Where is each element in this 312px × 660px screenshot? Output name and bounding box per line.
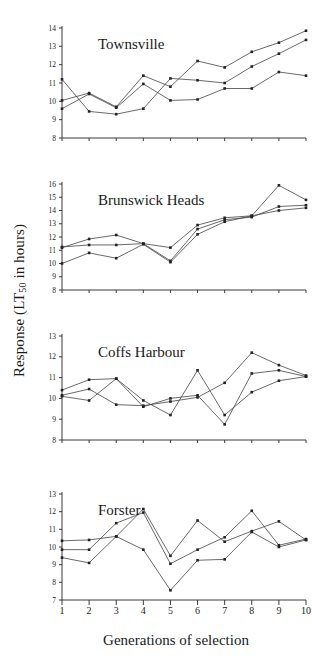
x-tick-label: 6 [195, 605, 200, 616]
data-point-marker [223, 87, 226, 90]
data-point-marker [305, 39, 308, 42]
data-point-marker [142, 511, 145, 514]
y-tick-label: 10 [49, 543, 57, 552]
y-tick-label: 11 [49, 246, 56, 255]
x-tick-label: 2 [87, 605, 92, 616]
data-point-marker [61, 262, 64, 265]
data-point-marker [61, 107, 64, 110]
series-line-3 [62, 208, 306, 264]
data-point-marker [278, 41, 281, 44]
y-tick-label: 8 [52, 134, 56, 143]
panel-brunswick-heads: 8910111213141516Brunswick Heads [40, 178, 312, 306]
data-point-marker [169, 400, 172, 403]
figure-root: Response (LT50 in hours) 891011121314Tow… [0, 0, 312, 660]
data-point-marker [88, 93, 91, 96]
data-point-marker [196, 79, 199, 82]
data-point-marker [223, 536, 226, 539]
data-point-marker [142, 548, 145, 551]
data-point-marker [169, 589, 172, 592]
data-point-marker [115, 403, 118, 406]
data-point-marker [61, 395, 64, 398]
y-axis-label-container: Response (LT50 in hours) [0, 0, 40, 600]
data-point-marker [115, 244, 118, 247]
y-tick-label: 11 [49, 373, 56, 382]
data-point-marker [250, 65, 253, 68]
series-line-3 [62, 370, 306, 424]
data-point-marker [169, 562, 172, 565]
data-point-marker [169, 414, 172, 417]
x-tick-label: 9 [276, 605, 281, 616]
data-point-marker [88, 399, 91, 402]
data-point-marker [305, 207, 308, 210]
data-point-marker [196, 559, 199, 562]
data-point-marker [223, 66, 226, 69]
data-point-marker [88, 548, 91, 551]
data-point-marker [278, 209, 281, 212]
data-point-marker [115, 113, 118, 116]
data-point-marker [223, 423, 226, 426]
data-point-marker [169, 77, 172, 80]
data-point-marker [223, 220, 226, 223]
data-point-marker [196, 548, 199, 551]
data-point-marker [88, 562, 91, 565]
data-point-marker [196, 98, 199, 101]
data-point-marker [223, 382, 226, 385]
data-point-marker [278, 52, 281, 55]
data-point-marker [169, 555, 172, 558]
data-point-marker [61, 389, 64, 392]
y-tick-label: 9 [52, 415, 56, 424]
data-point-marker [278, 71, 281, 74]
x-tick-label: 5 [168, 605, 173, 616]
data-point-marker [88, 378, 91, 381]
data-point-marker [88, 252, 91, 255]
data-point-marker [115, 535, 118, 538]
data-point-marker [305, 29, 308, 32]
data-point-marker [278, 205, 281, 208]
data-point-marker [196, 224, 199, 227]
data-point-marker [250, 87, 253, 90]
data-point-marker [142, 399, 145, 402]
data-point-marker [61, 556, 64, 559]
y-tick-label: 14 [49, 24, 57, 33]
series-line-2 [62, 205, 306, 261]
y-tick-label: 8 [52, 436, 56, 445]
data-point-marker [61, 99, 64, 102]
data-point-marker [142, 107, 145, 110]
data-point-marker [115, 377, 118, 380]
y-tick-label: 13 [49, 332, 57, 341]
data-point-marker [305, 74, 308, 77]
data-point-marker [88, 244, 91, 247]
y-tick-label: 13 [49, 490, 57, 499]
data-point-marker [250, 531, 253, 534]
chart-townsville: 891011121314 [40, 22, 312, 154]
data-point-marker [196, 233, 199, 236]
data-point-marker [196, 369, 199, 372]
data-point-marker [223, 540, 226, 543]
y-tick-label: 10 [49, 97, 57, 106]
data-point-marker [278, 184, 281, 187]
data-point-marker [169, 99, 172, 102]
data-point-marker [169, 397, 172, 400]
panel-title-coffs-harbour: Coffs Harbour [98, 344, 185, 361]
data-point-marker [278, 379, 281, 382]
data-point-marker [250, 51, 253, 54]
data-point-marker [115, 522, 118, 525]
y-tick-label: 11 [49, 79, 56, 88]
data-point-marker [142, 243, 145, 246]
y-axis-label-subscript: 50 [18, 282, 29, 292]
data-point-marker [88, 238, 91, 241]
data-point-marker [115, 234, 118, 237]
data-point-marker [115, 257, 118, 260]
data-point-marker [223, 558, 226, 561]
data-point-marker [61, 548, 64, 551]
data-point-marker [305, 539, 308, 542]
y-tick-label: 8 [52, 286, 56, 295]
data-point-marker [250, 372, 253, 375]
x-axis-caption: Generations of selection [40, 632, 312, 649]
data-point-marker [278, 546, 281, 549]
data-point-marker [250, 391, 253, 394]
y-tick-label: 12 [49, 60, 57, 69]
data-point-marker [223, 414, 226, 417]
data-point-marker [223, 82, 226, 85]
data-point-marker [61, 540, 64, 543]
